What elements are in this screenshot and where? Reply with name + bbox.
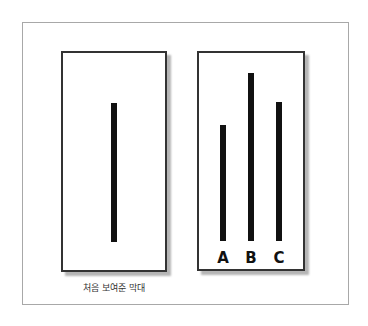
label-b: B	[241, 251, 261, 266]
standard-line	[111, 103, 117, 242]
comparison-line-b	[248, 73, 254, 241]
label-c: C	[269, 251, 289, 266]
standard-line-caption: 처음 보여준 막대	[70, 282, 158, 294]
comparison-line-a	[220, 125, 226, 241]
comparison-line-c	[276, 102, 282, 241]
label-a: A	[213, 251, 233, 266]
